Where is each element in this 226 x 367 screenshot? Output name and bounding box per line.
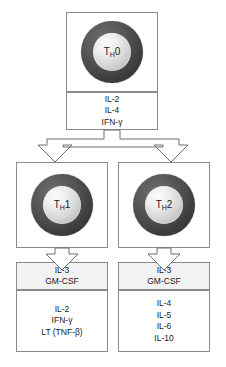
th2-cell-nucleus: TH2	[145, 186, 183, 224]
th1-shared-cytokine-1: IL-3	[55, 265, 70, 277]
th2-cell-body: TH2	[133, 174, 195, 236]
th0-cell-label: TH0	[104, 47, 121, 57]
th-cell-differentiation-diagram: TH0 IL-2 IL-4 IFN-γ TH1 TH2 IL-3 GM-CSF …	[0, 0, 226, 367]
th2-cell-graphic: TH2	[118, 162, 210, 248]
th2-cell-label: TH2	[156, 200, 173, 210]
th1-cytokine-2: IFN-γ	[52, 315, 73, 327]
th2-cytokine-3: IL-6	[157, 321, 172, 333]
forked-down-arrow-icon	[38, 130, 188, 162]
th2-shared-cytokine-1: IL-3	[157, 265, 172, 277]
th2-cytokine-4: IL-10	[154, 333, 173, 345]
th2-shared-cytokine-box: IL-3 GM-CSF	[118, 262, 210, 290]
th2-shared-cytokine-2: GM-CSF	[147, 276, 181, 288]
th2-cytokine-2: IL-5	[157, 310, 172, 322]
th0-cytokine-1: IL-2	[105, 94, 120, 106]
th0-cell-nucleus: TH0	[93, 33, 131, 71]
th0-cell-body: TH0	[81, 21, 143, 83]
th1-cell-graphic: TH1	[16, 162, 108, 248]
th0-cytokine-box: IL-2 IL-4 IFN-γ	[66, 92, 158, 130]
th1-cytokine-box: IL-2 IFN-γ LT (TNF-β)	[16, 290, 108, 352]
th1-cell-nucleus: TH1	[43, 186, 81, 224]
th1-cytokine-3: LT (TNF-β)	[41, 327, 82, 339]
th1-cell-label: TH1	[54, 200, 71, 210]
th1-cytokine-1: IL-2	[55, 304, 70, 316]
th2-cytokine-1: IL-4	[157, 298, 172, 310]
th0-cell-graphic: TH0	[66, 12, 158, 92]
th1-cell-body: TH1	[31, 174, 93, 236]
th1-shared-cytokine-2: GM-CSF	[45, 276, 79, 288]
th0-cytokine-2: IL-4	[105, 105, 120, 117]
th0-cytokine-3: IFN-γ	[102, 117, 123, 129]
th1-shared-cytokine-box: IL-3 GM-CSF	[16, 262, 108, 290]
th2-cytokine-box: IL-4 IL-5 IL-6 IL-10	[118, 290, 210, 352]
